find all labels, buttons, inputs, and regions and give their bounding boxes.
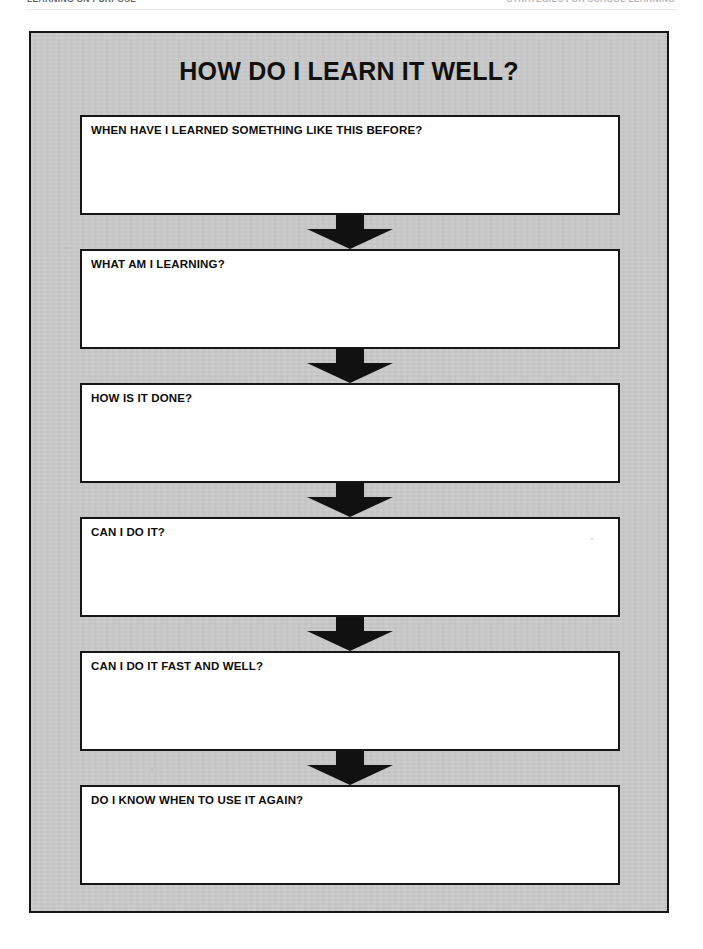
down-arrow-icon xyxy=(307,215,393,249)
question-box-label-6: DO I KNOW WHEN TO USE IT AGAIN? xyxy=(91,794,303,806)
down-arrow-icon xyxy=(307,617,393,651)
question-response-area-2[interactable] xyxy=(84,277,616,345)
down-arrow-icon xyxy=(307,483,393,517)
down-arrow-icon xyxy=(307,349,393,383)
question-response-area-1[interactable] xyxy=(84,143,616,211)
flow-connector-arrow-4 xyxy=(80,617,620,651)
question-box-6: DO I KNOW WHEN TO USE IT AGAIN? xyxy=(80,785,620,885)
question-box-3: HOW IS IT DONE? xyxy=(80,383,620,483)
question-box-label-3: HOW IS IT DONE? xyxy=(91,392,192,404)
down-arrow-icon xyxy=(307,751,393,785)
flow-step-4: CAN I DO IT? xyxy=(80,517,620,617)
flow-connector-arrow-1 xyxy=(80,215,620,249)
question-box-label-1: WHEN HAVE I LEARNED SOMETHING LIKE THIS … xyxy=(91,124,422,136)
worksheet-frame: HOW DO I LEARN IT WELL? WHEN HAVE I LEAR… xyxy=(29,31,669,913)
question-box-4: CAN I DO IT? xyxy=(80,517,620,617)
question-box-label-5: CAN I DO IT FAST AND WELL? xyxy=(91,660,263,672)
question-box-label-2: WHAT AM I LEARNING? xyxy=(91,258,225,270)
page-running-head: LEARNING ON PURPOSE STRATEGIES FOR SCHOO… xyxy=(0,0,703,16)
question-response-area-5[interactable] xyxy=(84,679,616,747)
question-response-area-3[interactable] xyxy=(84,411,616,479)
running-head-right: STRATEGIES FOR SCHOOL LEARNING xyxy=(507,0,675,4)
question-box-2: WHAT AM I LEARNING? xyxy=(80,249,620,349)
question-response-area-4[interactable] xyxy=(84,545,616,613)
flow-step-1: WHEN HAVE I LEARNED SOMETHING LIKE THIS … xyxy=(80,115,620,215)
question-box-5: CAN I DO IT FAST AND WELL? xyxy=(80,651,620,751)
flow-connector-arrow-3 xyxy=(80,483,620,517)
flow-step-2: WHAT AM I LEARNING? xyxy=(80,249,620,349)
question-flow: WHEN HAVE I LEARNED SOMETHING LIKE THIS … xyxy=(80,115,620,885)
running-head-left: LEARNING ON PURPOSE xyxy=(27,0,136,4)
flow-step-5: CAN I DO IT FAST AND WELL? xyxy=(80,651,620,751)
flow-step-3: HOW IS IT DONE? xyxy=(80,383,620,483)
scan-speck xyxy=(65,247,68,249)
flow-connector-arrow-2 xyxy=(80,349,620,383)
running-head-rule xyxy=(26,9,677,10)
flow-connector-arrow-5 xyxy=(80,751,620,785)
flow-step-6: DO I KNOW WHEN TO USE IT AGAIN? xyxy=(80,785,620,885)
question-response-area-6[interactable] xyxy=(84,813,616,881)
worksheet-title: HOW DO I LEARN IT WELL? xyxy=(31,57,667,86)
question-box-1: WHEN HAVE I LEARNED SOMETHING LIKE THIS … xyxy=(80,115,620,215)
question-box-label-4: CAN I DO IT? xyxy=(91,526,165,538)
